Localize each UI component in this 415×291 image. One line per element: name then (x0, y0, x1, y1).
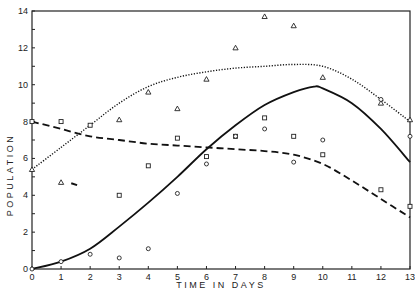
y-axis-label: POPULATION (5, 134, 15, 216)
triangle-marker (146, 89, 151, 94)
triangle-marker (291, 23, 296, 28)
x-tick-label: 10 (318, 272, 328, 282)
y-tick-label: 2 (23, 227, 28, 237)
triangle-marker (320, 75, 325, 80)
circle-marker (408, 134, 412, 138)
circle-marker (321, 138, 325, 142)
x-tick-label: 9 (291, 272, 296, 282)
circle-marker (30, 267, 34, 271)
circle-marker (292, 160, 296, 164)
circle-marker (234, 134, 238, 138)
square-marker (263, 116, 267, 120)
square-marker (88, 123, 92, 127)
square-marker (30, 120, 34, 124)
stray-mark (71, 183, 77, 185)
axes: 02468101214012345678910111213 (18, 6, 415, 282)
x-axis-label: TIME IN DAYS (176, 280, 265, 290)
x-tick-label: 13 (405, 272, 415, 282)
circle-marker (146, 247, 150, 251)
x-tick-label: 0 (29, 272, 34, 282)
triangle-marker (233, 45, 238, 50)
triangle-marker (175, 106, 180, 111)
data-markers (29, 14, 412, 271)
circle-marker (175, 191, 179, 195)
circles-fit-curve (32, 86, 410, 269)
x-tick-label: 11 (347, 272, 356, 282)
triangle-marker (58, 180, 63, 185)
circle-marker (117, 256, 121, 260)
x-tick-label: 3 (117, 272, 122, 282)
square-marker (292, 134, 296, 138)
circle-marker (379, 97, 383, 101)
triangle-marker (204, 77, 209, 82)
circle-marker (263, 127, 267, 131)
triangle-marker (262, 14, 267, 19)
circle-marker (204, 162, 208, 166)
circle-marker (88, 252, 92, 256)
square-marker (146, 164, 150, 168)
y-tick-label: 4 (23, 190, 28, 200)
y-tick-label: 10 (18, 80, 28, 90)
y-tick-label: 0 (23, 264, 28, 274)
square-marker (408, 204, 412, 208)
x-tick-label: 2 (88, 272, 93, 282)
fit-curves (32, 64, 410, 269)
triangle-marker (117, 117, 122, 122)
plot-frame (32, 11, 410, 269)
square-marker (175, 136, 179, 140)
y-tick-label: 6 (23, 153, 28, 163)
triangles-fit-curve (32, 64, 410, 169)
y-tick-label: 8 (23, 117, 28, 127)
square-marker (379, 188, 383, 192)
square-marker (117, 193, 121, 197)
triangle-marker (29, 167, 34, 172)
x-tick-label: 12 (376, 272, 386, 282)
y-tick-label: 12 (18, 43, 28, 53)
circle-marker (59, 260, 63, 264)
square-marker (321, 153, 325, 157)
square-marker (204, 155, 208, 159)
x-tick-label: 4 (146, 272, 151, 282)
y-tick-label: 14 (18, 6, 28, 16)
population-chart: 02468101214012345678910111213 TIME IN DA… (0, 0, 415, 291)
square-marker (59, 120, 63, 124)
x-tick-label: 1 (59, 272, 64, 282)
